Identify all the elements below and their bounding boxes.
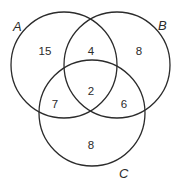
venn-diagram: A B C 15 4 8 2 7 6 8 (0, 0, 183, 186)
region-c-only: 8 (88, 139, 94, 151)
region-abc: 2 (88, 85, 94, 97)
region-ab-only: 4 (88, 45, 95, 57)
set-label-c: C (119, 166, 129, 181)
region-ac-only: 7 (52, 98, 58, 110)
region-b-only: 8 (136, 45, 142, 57)
set-label-a: A (12, 19, 22, 34)
region-a-only: 15 (39, 45, 52, 57)
set-label-b: B (158, 18, 167, 33)
region-bc-only: 6 (121, 98, 127, 110)
